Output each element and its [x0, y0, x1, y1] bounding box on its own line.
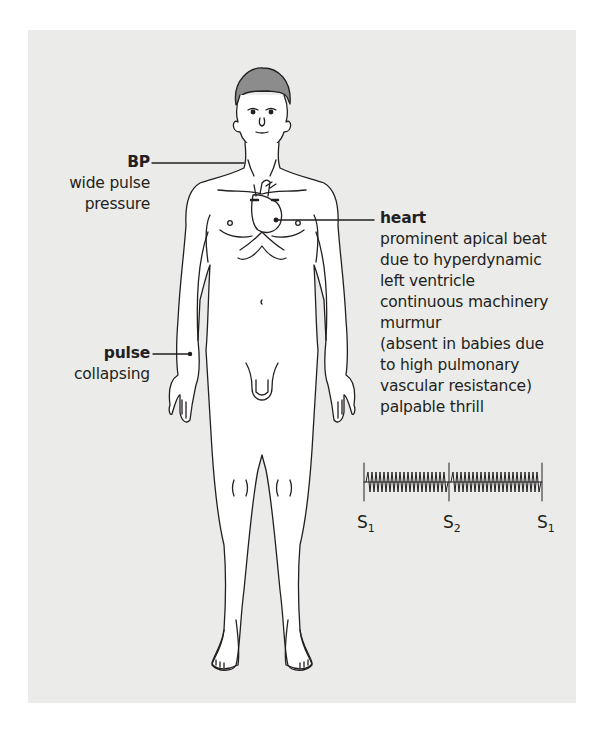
pulse-title: pulse [60, 343, 150, 364]
heart-line-3: left ventricle [380, 271, 580, 292]
phonocardiogram [364, 463, 542, 501]
heart-line-1: prominent apical beat [380, 229, 580, 250]
heart-line-9: palpable thrill [380, 397, 580, 418]
heart-line-2: due to hyperdynamic [380, 250, 580, 271]
bp-line-2: pressure [60, 194, 150, 215]
pulse-annotation: pulse collapsing [60, 343, 150, 385]
heart-line-4: continuous machinery [380, 292, 580, 313]
heart-line-8: vascular resistance) [380, 376, 580, 397]
bp-title: BP [60, 152, 150, 173]
s2-label: S2 [443, 512, 461, 535]
bp-line-1: wide pulse [60, 173, 150, 194]
pulse-line-1: collapsing [60, 364, 150, 385]
heart-line-5: murmur [380, 313, 580, 334]
bp-annotation: BP wide pulse pressure [60, 152, 150, 215]
s1-label-right: S1 [537, 512, 555, 535]
heart-line-6: (absent in babies due [380, 334, 580, 355]
heart-annotation: heart prominent apical beat due to hyper… [380, 208, 580, 418]
heart-title: heart [380, 208, 580, 229]
head [233, 95, 290, 150]
heart-line-7: to high pulmonary [380, 355, 580, 376]
s1-label-left: S1 [357, 512, 375, 535]
